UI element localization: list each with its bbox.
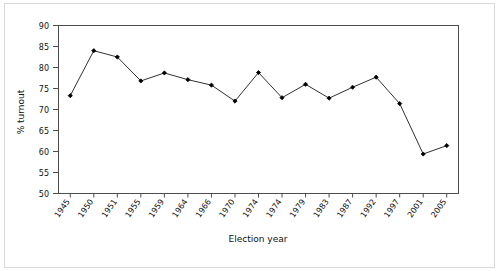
x-axis-title: Election year bbox=[229, 234, 288, 244]
y-axis-title-group: % turnout bbox=[16, 89, 26, 134]
x-tick-label-1992-13: 1992 bbox=[359, 197, 378, 219]
y-tick-label-65: 65 bbox=[39, 127, 49, 136]
y-axis-title: % turnout bbox=[16, 89, 26, 134]
y-tick-label-70: 70 bbox=[39, 106, 49, 115]
y-tick-label-75: 75 bbox=[39, 85, 49, 94]
chart-page: % turnout 90 85 80 75 70 65 bbox=[0, 0, 499, 271]
chart-canvas: % turnout 90 85 80 75 70 65 bbox=[0, 0, 499, 271]
y-tick-label-50: 50 bbox=[39, 190, 49, 199]
y-tick-label-60: 60 bbox=[39, 148, 49, 157]
x-tick-label-1983-11: 1983 bbox=[312, 197, 331, 219]
y-tick-label-80: 80 bbox=[39, 64, 49, 73]
x-tick-label-2005-16: 2005 bbox=[429, 197, 448, 219]
x-tick-label-1951-2: 1951 bbox=[100, 197, 119, 219]
plot-area-frame bbox=[59, 26, 459, 194]
y-tick-label-55: 55 bbox=[39, 169, 49, 178]
x-tick-label-1974-9: 1974 bbox=[265, 197, 284, 219]
y-tick-label-85: 85 bbox=[39, 43, 49, 52]
x-tick-label-1959-4: 1959 bbox=[147, 197, 166, 219]
x-tick-label-1955-3: 1955 bbox=[123, 197, 142, 219]
y-tick-label-90: 90 bbox=[39, 22, 49, 31]
x-tick-label-1964-5: 1964 bbox=[171, 197, 190, 219]
x-tick-label-1974-8: 1974 bbox=[241, 197, 260, 219]
x-tick-label-1945-0: 1945 bbox=[53, 197, 72, 219]
y-axis-ticks: 90 85 80 75 70 65 60 55 50 bbox=[39, 22, 59, 199]
x-tick-label-1987-12: 1987 bbox=[335, 197, 354, 219]
turnout-line-chart-figure: % turnout 90 85 80 75 70 65 bbox=[0, 0, 499, 271]
x-axis-tick-labels: 1945195019511955195919641966197019741974… bbox=[53, 197, 449, 219]
x-tick-label-1997-14: 1997 bbox=[382, 197, 401, 219]
x-tick-label-1970-7: 1970 bbox=[218, 197, 237, 219]
x-tick-label-2001-15: 2001 bbox=[406, 197, 425, 219]
x-tick-label-1979-10: 1979 bbox=[288, 197, 307, 219]
x-tick-label-1950-1: 1950 bbox=[76, 197, 95, 219]
x-axis-ticks bbox=[70, 194, 446, 198]
x-tick-label-1966-6: 1966 bbox=[194, 197, 213, 219]
